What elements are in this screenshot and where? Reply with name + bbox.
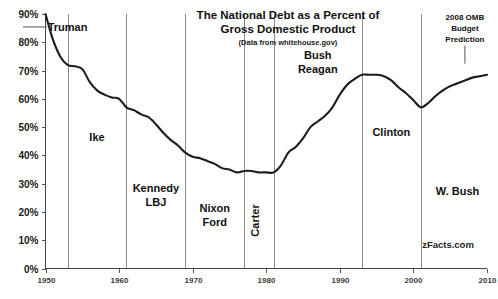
- era-label-nixon-ford-line2: Ford: [203, 216, 227, 228]
- chart-container: 0%10%20%30%40%50%60%70%80%90% 1950196019…: [0, 0, 498, 299]
- x-tick-label-2010: 2010: [479, 276, 497, 285]
- y-axis-tick-labels: 0%10%20%30%40%50%60%70%80%90%: [18, 9, 38, 275]
- chart-subtitle: (Data from whitehouse.gov): [239, 38, 338, 47]
- era-label-nixon-ford: Nixon: [199, 202, 230, 214]
- y-tick-label-10: 10%: [18, 235, 38, 246]
- y-tick-label-80: 80%: [18, 37, 38, 48]
- era-label-w-bush: W. Bush: [436, 185, 480, 197]
- x-tick-label-1960: 1960: [111, 276, 129, 285]
- x-tick-label-2000: 2000: [405, 276, 423, 285]
- y-tick-label-60: 60%: [18, 94, 38, 105]
- y-tick-label-70: 70%: [18, 66, 38, 77]
- national-debt-gdp-chart: 0%10%20%30%40%50%60%70%80%90% 1950196019…: [0, 0, 498, 299]
- era-label-clinton: Clinton: [372, 126, 410, 138]
- x-tick-label-1970: 1970: [185, 276, 203, 285]
- y-tick-label-30: 30%: [18, 179, 38, 190]
- plot-area-background: [45, 14, 487, 268]
- zfacts-watermark: zFacts.com: [422, 239, 474, 250]
- annotation-omb-prediction-line3: Prediction: [445, 35, 484, 44]
- era-label-bush-reagan: Bush: [304, 49, 332, 61]
- era-label-bush-reagan-line2: Reagan: [298, 63, 338, 75]
- era-label-truman: Truman: [48, 21, 88, 33]
- y-axis-ticks: [42, 15, 46, 270]
- y-tick-label-40: 40%: [18, 150, 38, 161]
- x-tick-label-1990: 1990: [332, 276, 350, 285]
- y-tick-label-20: 20%: [18, 207, 38, 218]
- x-axis-ticks: [47, 269, 488, 273]
- chart-title-line-2: Gross Domestic Product: [221, 23, 356, 35]
- x-tick-label-1950: 1950: [38, 276, 56, 285]
- y-tick-label-50: 50%: [18, 122, 38, 133]
- chart-title-line-1: The National Debt as a Percent of: [197, 9, 380, 21]
- y-tick-label-0: 0%: [24, 264, 39, 275]
- era-label-kennedy-lbj-line2: LBJ: [145, 196, 166, 208]
- y-tick-label-90: 90%: [18, 9, 38, 20]
- annotation-omb-prediction-line2: Budget: [451, 24, 479, 33]
- annotation-omb-prediction-line1: 2008 OMB: [446, 13, 485, 22]
- era-label-carter: Carter: [249, 204, 261, 237]
- x-tick-label-1980: 1980: [258, 276, 276, 285]
- era-label-ike: Ike: [89, 131, 104, 143]
- x-axis-tick-labels: 1950196019701980199020002010: [38, 276, 497, 285]
- era-label-kennedy-lbj: Kennedy: [133, 182, 180, 194]
